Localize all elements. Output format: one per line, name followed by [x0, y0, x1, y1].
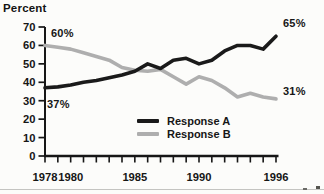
y-tick-label: 30 [23, 95, 35, 107]
y-tick-label: 0 [29, 150, 35, 162]
scan-artifact-speck [303, 188, 307, 190]
x-tick-label: 1990 [187, 171, 212, 183]
annotation-response-b-start: 60% [51, 27, 74, 39]
x-tick-label: 1978 [33, 171, 58, 183]
line-chart-canvas: 01020304050607019781980198519901996 [0, 0, 324, 194]
y-tick-label: 20 [23, 113, 35, 125]
y-tick-label: 60 [23, 39, 35, 51]
legend-label-response-b: Response B [167, 128, 231, 140]
annotation-response-a-end: 65% [283, 17, 306, 29]
series-line-response-a [45, 36, 276, 88]
annotation-response-b-end: 31% [283, 85, 306, 97]
response-b-line-swatch [137, 132, 159, 136]
series-line-response-b [45, 45, 276, 98]
percent-line-chart-page: Percent 01020304050607019781980198519901… [0, 0, 324, 194]
legend-item-response-a: Response A [137, 114, 231, 127]
scan-artifact-speck [316, 186, 320, 189]
annotation-response-a-start: 37% [47, 98, 70, 110]
legend-label-response-a: Response A [167, 115, 230, 127]
y-tick-label: 50 [23, 58, 35, 70]
y-tick-label: 40 [23, 76, 35, 88]
y-tick-label: 70 [23, 21, 35, 33]
legend: Response A Response B [137, 114, 231, 140]
legend-item-response-b: Response B [137, 127, 231, 140]
x-tick-label: 1996 [264, 171, 289, 183]
x-tick-label: 1985 [122, 171, 147, 183]
scan-artifact-line [0, 189, 324, 190]
y-tick-label: 10 [23, 132, 35, 144]
x-tick-label: 1980 [58, 171, 83, 183]
response-a-line-swatch [137, 119, 159, 123]
